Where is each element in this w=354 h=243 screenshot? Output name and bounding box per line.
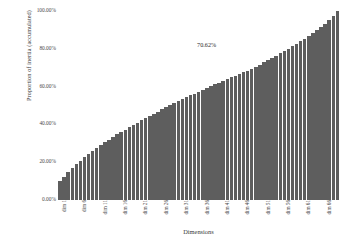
- x-axis-tick-label: dim 21: [143, 200, 148, 215]
- bar: [274, 56, 277, 200]
- bar: [193, 94, 196, 200]
- x-axis-tick-label: dim 51: [266, 200, 271, 215]
- x-axis-tick-label: dim 16: [123, 200, 128, 215]
- x-axis-tick-label: dim 61: [306, 200, 311, 215]
- bar: [283, 51, 286, 200]
- x-axis-tick-label: dim 66: [327, 200, 332, 215]
- cumulative-inertia-bar-chart: Proportion of inertia (accumulated) 100.…: [0, 0, 354, 243]
- bar: [75, 164, 78, 200]
- bar: [242, 72, 245, 200]
- y-axis-tick-labels: 100.00%80.00%60.00%40.00%20.00%0.00%: [22, 11, 56, 200]
- bar: [327, 20, 330, 200]
- bar: [217, 83, 220, 200]
- bar: [226, 79, 229, 200]
- x-axis-tick-label: dim 31: [184, 200, 189, 215]
- bar: [107, 140, 110, 200]
- y-axis-tick-label: 40.00%: [22, 122, 56, 127]
- x-axis-tick-label: dim 56: [286, 200, 291, 215]
- bar: [62, 177, 65, 200]
- bar: [136, 123, 139, 200]
- bar: [246, 71, 249, 200]
- bar: [87, 154, 90, 200]
- x-axis-tick-labels: dim 1dim 6dim 11dim 16dim 21dim 26dim 31…: [58, 200, 339, 222]
- x-axis-tick-label: dim 41: [225, 200, 230, 215]
- bar: [168, 105, 171, 200]
- y-axis-tick-label: 80.00%: [22, 46, 56, 51]
- bar: [262, 62, 265, 200]
- bar: [201, 90, 204, 200]
- y-axis-tick-label: 0.00%: [22, 197, 56, 202]
- x-axis-tick-label: dim 46: [245, 200, 250, 215]
- bar: [315, 30, 318, 200]
- y-axis-tick-label: 20.00%: [22, 159, 56, 164]
- bar: [250, 69, 253, 200]
- y-axis-tick-label: 100.00%: [22, 8, 56, 13]
- bar: [66, 172, 69, 200]
- bar: [266, 60, 269, 200]
- bar: [115, 134, 118, 200]
- bar: [144, 118, 147, 200]
- bar: [234, 76, 237, 200]
- bar: [172, 103, 175, 200]
- x-axis-tick-label: dim 6: [82, 200, 87, 212]
- bar: [230, 77, 233, 200]
- y-axis-tick-label: 60.00%: [22, 84, 56, 89]
- bar: [205, 88, 208, 200]
- bar: [152, 114, 155, 200]
- bar: [311, 33, 314, 200]
- bar: [221, 81, 224, 200]
- value-annotation: 70.62%: [197, 41, 216, 48]
- bar: [189, 95, 192, 200]
- bar: [185, 97, 188, 200]
- bar: [258, 65, 261, 200]
- bar: [299, 41, 302, 200]
- bar-series: [58, 11, 339, 200]
- bar: [197, 92, 200, 200]
- bar: [83, 157, 86, 200]
- bar: [99, 145, 102, 200]
- x-axis-tick-label: dim 11: [103, 200, 108, 214]
- bar: [132, 125, 135, 200]
- x-axis-tick-label: dim 1: [62, 200, 67, 212]
- bar: [213, 84, 216, 200]
- bar: [270, 58, 273, 200]
- bar: [148, 116, 151, 200]
- bar: [307, 36, 310, 200]
- x-axis-tick-label: dim 36: [205, 200, 210, 215]
- bar: [177, 101, 180, 200]
- bar: [279, 53, 282, 200]
- x-axis-title: Dimensions: [58, 228, 339, 235]
- bar: [291, 46, 294, 200]
- bar: [58, 181, 61, 200]
- bar: [156, 112, 159, 200]
- bar: [103, 142, 106, 200]
- bar: [164, 107, 167, 200]
- bar: [71, 168, 74, 200]
- bar: [323, 24, 326, 200]
- bar: [181, 99, 184, 200]
- bar: [254, 67, 257, 200]
- bar: [160, 109, 163, 200]
- plot-area: 70.62%: [58, 11, 339, 200]
- bar: [119, 132, 122, 200]
- bar: [79, 161, 82, 200]
- bar: [295, 44, 298, 200]
- bar: [128, 127, 131, 200]
- bar: [91, 151, 94, 200]
- bar: [332, 16, 335, 200]
- bar: [336, 11, 339, 200]
- bar: [95, 148, 98, 200]
- bar: [319, 27, 322, 200]
- bar: [209, 86, 212, 200]
- bar: [238, 74, 241, 200]
- x-axis-tick-label: dim 26: [164, 200, 169, 215]
- bar: [111, 137, 114, 200]
- bar: [287, 49, 290, 200]
- bar: [303, 39, 306, 200]
- bar: [140, 120, 143, 200]
- bar: [124, 130, 127, 200]
